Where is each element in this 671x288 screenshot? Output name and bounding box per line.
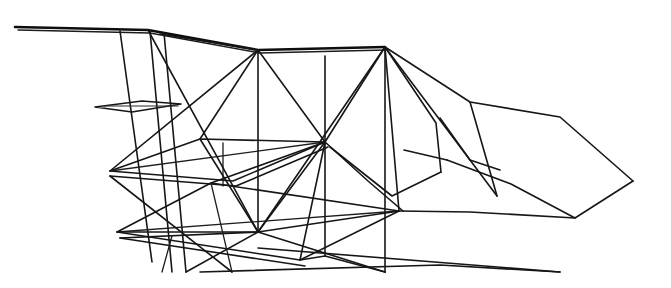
wireframe-canvas [0, 0, 671, 288]
figure-background [0, 0, 671, 288]
wireframe-figure [0, 0, 671, 288]
